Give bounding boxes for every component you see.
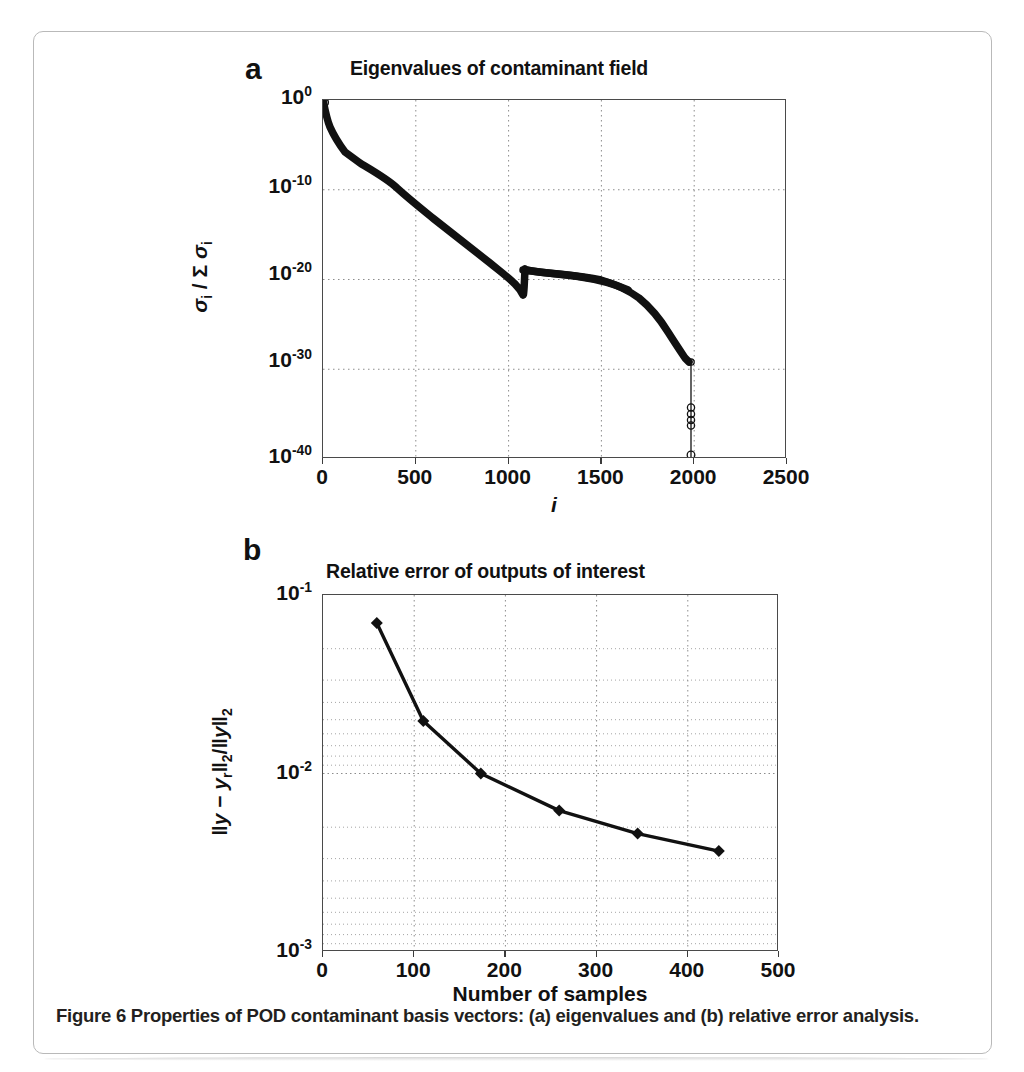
panel-a-letter: a	[245, 52, 262, 86]
panel-a-ytick-1-exponent: -10	[292, 172, 312, 188]
panel-b-yaxis-title: ‖y − yr‖2/‖y‖2	[208, 662, 232, 882]
panel-b-ytick-2: 10-3	[226, 939, 312, 960]
panel-a-ytick-0-mantissa: 10	[281, 85, 304, 108]
panel-a-ytick-2-exponent: -20	[292, 259, 312, 275]
panel-b-xtick-1: 100	[383, 959, 443, 980]
panel-b-xtickmark-5	[778, 951, 779, 957]
panel-a-ytick-3: 10-30	[222, 349, 312, 370]
panel-a-xtickmark-1	[415, 458, 416, 464]
panel-a-yaxis-title: σi / Σ σi	[188, 197, 212, 357]
panel-b-xtick-4: 400	[657, 959, 717, 980]
panel-b-xtick-5: 500	[748, 959, 808, 980]
panel-b-ytick-0-mantissa: 10	[276, 581, 299, 604]
panel-b-minor-horizontal-gridlines	[323, 649, 778, 944]
panel-a-svg	[323, 100, 786, 458]
panel-a-xtick-1: 500	[385, 466, 445, 487]
panel-a-ytick-4-mantissa: 10	[269, 444, 292, 467]
panel-b-xtickmark-4	[687, 951, 688, 957]
panel-a-xtick-3: 1500	[570, 466, 630, 487]
panel-b-xtick-2: 200	[474, 959, 534, 980]
panel-b-ytick-1-mantissa: 10	[276, 760, 299, 783]
panel-b-ytick-0-exponent: -1	[300, 579, 312, 595]
panel-a-horizontal-gridlines	[323, 190, 786, 370]
panel-a-xtick-2: 1000	[478, 466, 538, 487]
panel-a-ytick-0: 100	[240, 86, 312, 107]
panel-a-xtick-5: 2500	[756, 466, 816, 487]
panel-b-xtickmark-3	[596, 951, 597, 957]
panel-a-ytick-0-exponent: 0	[304, 83, 312, 99]
panel-b-svg	[323, 595, 778, 951]
panel-a-xtick-0: 0	[292, 466, 352, 487]
panel-a-title: Eigenvalues of contaminant field	[350, 57, 648, 80]
panel-a-eigenvalue-curve	[323, 101, 689, 362]
panel-a-ytick-4-exponent: -40	[292, 442, 312, 458]
panel-b-ytick-0: 10-1	[226, 582, 312, 603]
panel-a-xtick-4: 2000	[663, 466, 723, 487]
panel-b-ytick-2-exponent: -3	[300, 936, 312, 952]
panel-b-ytick-2-mantissa: 10	[276, 938, 299, 961]
panel-b-xtickmark-0	[322, 951, 323, 957]
panel-b-xtickmark-1	[413, 951, 414, 957]
panel-a-ytick-1: 10-10	[222, 175, 312, 196]
panel-b-title: Relative error of outputs of interest	[326, 560, 645, 583]
panel-a-xtickmark-4	[693, 458, 694, 464]
figure-caption: Figure 6 Properties of POD contaminant b…	[56, 1005, 956, 1027]
panel-b-error-curve	[377, 623, 719, 851]
panel-a-xaxis-title: i	[524, 493, 584, 517]
panel-b-plot-area	[322, 594, 778, 951]
panel-b-xaxis-title: Number of samples	[420, 982, 680, 1006]
panel-b-xtick-0: 0	[292, 959, 352, 980]
panel-a-ytick-3-exponent: -30	[292, 346, 312, 362]
panel-a-ytick-4: 10-40	[222, 445, 312, 466]
panel-a-xtickmark-2	[508, 458, 509, 464]
panel-a-ytick-3-mantissa: 10	[269, 348, 292, 371]
panel-b-ytick-1: 10-2	[226, 761, 312, 782]
panel-b-data-markers	[371, 617, 725, 857]
card-bottom-shadow	[44, 1057, 989, 1061]
panel-a-xtickmark-5	[786, 458, 787, 464]
panel-b-letter: b	[243, 533, 261, 567]
panel-b-xtick-3: 300	[566, 959, 626, 980]
panel-b-xtickmark-2	[504, 951, 505, 957]
panel-b-ytick-1-exponent: -2	[300, 758, 312, 774]
panel-a-ytick-2: 10-20	[222, 262, 312, 283]
panel-a-ytick-2-mantissa: 10	[269, 261, 292, 284]
panel-a-xtickmark-0	[322, 458, 323, 464]
panel-a-ytick-1-mantissa: 10	[269, 174, 292, 197]
panel-a-vertical-gridlines	[416, 100, 694, 458]
panel-a-xtickmark-3	[600, 458, 601, 464]
panel-a-plot-area	[322, 99, 786, 458]
